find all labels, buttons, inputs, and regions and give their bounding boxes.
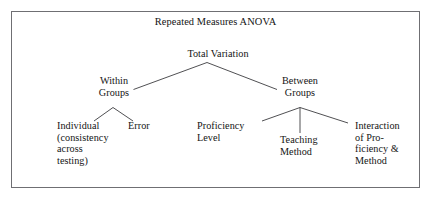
node-interaction: Interaction of Pro- ficiency & Method — [355, 120, 417, 166]
node-total-variation: Total Variation — [176, 48, 260, 60]
node-individual: Individual (consistency across testing) — [57, 120, 125, 166]
node-within-groups: Within Groups — [84, 75, 144, 98]
figure-title: Repeated Measures ANOVA — [11, 16, 420, 27]
node-error: Error — [128, 120, 168, 132]
node-proficiency-level: Proficiency Level — [197, 120, 261, 143]
node-teaching-method: Teaching Method — [280, 134, 338, 157]
anova-tree-figure: Repeated Measures ANOVA Total Variation … — [0, 0, 433, 208]
node-between-groups: Between Groups — [268, 75, 332, 98]
